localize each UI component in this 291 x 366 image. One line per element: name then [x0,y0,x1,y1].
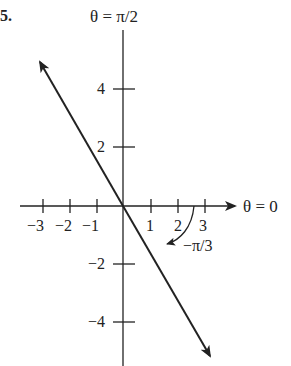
x-tick-label: −2 [55,218,72,234]
x-tick-label: −1 [82,218,99,234]
x-tick-label: 2 [174,218,182,234]
polar-line-lower [123,206,210,356]
horizontal-axis-label: θ = 0 [243,198,278,215]
polar-line [40,62,123,206]
angle-label: −π/3 [183,238,213,254]
vertical-axis-label: θ = π/2 [90,8,138,25]
x-tick-label: −3 [27,218,44,234]
x-tick-label: 3 [199,218,207,234]
problem-number: 5. [0,8,12,24]
x-tick-label: 1 [146,218,154,234]
polar-diagram [0,0,291,366]
y-tick-label: −2 [88,256,105,272]
y-tick-label: 4 [97,81,105,97]
y-tick-label: 2 [97,139,105,155]
y-tick-label: −4 [88,314,105,330]
